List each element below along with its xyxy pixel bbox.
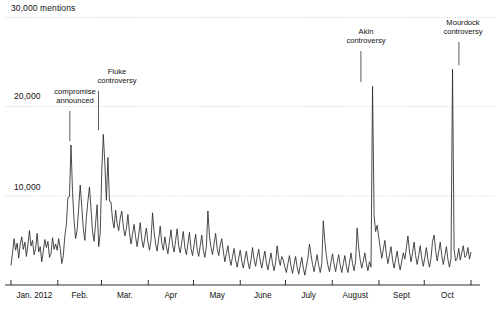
mentions-timeline-chart: 30,000 mentions 20,000 10,000 compromise… (0, 0, 496, 318)
annotation-line-2: controversy (86, 77, 148, 86)
x-axis-label-mar: Mar. (117, 291, 133, 301)
y-axis-label-10000: 10,000 (14, 182, 41, 192)
x-axis (5, 280, 480, 285)
x-axis-label-sept: Sept (393, 291, 410, 301)
chart-canvas (0, 0, 496, 318)
y-axis-label-30000: 30,000 mentions (11, 3, 75, 13)
annotation-akin-controversy: Akin controversy (335, 28, 397, 45)
annotation-compromise-announced: compromise announced (44, 88, 106, 105)
x-axis-label-oct: Oct (441, 291, 454, 301)
x-axis-label-apr: Apr (164, 291, 177, 301)
x-axis-label-august: August (343, 291, 369, 301)
x-axis-label-jan-2012: Jan. 2012 (16, 291, 52, 301)
gridlines (5, 18, 496, 196)
annotation-line-2: controversy (432, 28, 494, 37)
annotation-fluke-controversy: Fluke controversy (86, 68, 148, 85)
x-axis-label-feb: Feb. (72, 291, 88, 301)
annotation-line-2: announced (44, 97, 106, 106)
y-axis-label-20000: 20,000 (14, 91, 41, 101)
x-axis-label-june: June (254, 291, 272, 301)
x-axis-label-may: May (209, 291, 224, 301)
annotation-line-2: controversy (335, 37, 397, 46)
annotation-leader-lines (70, 42, 459, 141)
x-axis-label-july: July (301, 291, 316, 301)
annotation-mourdock-controversy: Mourdock controversy (432, 19, 494, 36)
